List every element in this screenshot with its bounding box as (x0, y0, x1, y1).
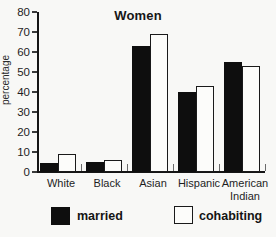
x-tick-mark-4 (219, 164, 220, 171)
y-tick-mark-40 (32, 91, 37, 93)
y-tick-mark-60 (32, 51, 37, 53)
y-tick-mark-30 (32, 111, 37, 113)
bar-cohabiting-hispanic (196, 86, 214, 172)
y-axis-line (37, 12, 39, 173)
legend-swatch-cohabiting (174, 206, 193, 224)
legend-label-married: married (77, 209, 123, 223)
x-tick-mark-5 (265, 164, 266, 171)
y-tick-label-60: 60 (6, 45, 30, 59)
bar-chart-figure: Women percentage 01020304050607080WhiteB… (0, 0, 276, 237)
y-tick-label-0: 0 (6, 165, 30, 179)
bar-married-asian (132, 46, 150, 172)
y-tick-label-80: 80 (6, 5, 30, 19)
y-tick-label-20: 20 (6, 125, 30, 139)
bar-married-american-indian (224, 62, 242, 172)
y-tick-label-70: 70 (6, 25, 30, 39)
x-tick-mark-2 (127, 164, 128, 171)
x-tick-mark-3 (173, 164, 174, 171)
bar-cohabiting-american-indian (242, 66, 260, 172)
x-tick-mark-1 (81, 164, 82, 171)
bar-cohabiting-white (58, 154, 76, 172)
bar-cohabiting-black (104, 160, 122, 172)
y-tick-mark-70 (32, 31, 37, 33)
y-tick-label-10: 10 (6, 145, 30, 159)
y-tick-mark-80 (32, 11, 37, 13)
y-tick-label-40: 40 (6, 85, 30, 99)
bar-married-black (86, 162, 104, 172)
bar-married-white (40, 163, 58, 172)
y-tick-mark-20 (32, 131, 37, 133)
x-category-label-american-indian: American Indian (213, 177, 276, 202)
legend-label-cohabiting: cohabiting (199, 209, 262, 223)
legend-swatch-married (51, 207, 70, 225)
bar-cohabiting-asian (150, 34, 168, 172)
legend: married cohabiting (0, 200, 276, 237)
y-tick-label-30: 30 (6, 105, 30, 119)
y-tick-label-50: 50 (6, 65, 30, 79)
y-tick-mark-0 (32, 171, 37, 173)
y-tick-mark-50 (32, 71, 37, 73)
y-tick-mark-10 (32, 151, 37, 153)
bar-married-hispanic (178, 92, 196, 172)
